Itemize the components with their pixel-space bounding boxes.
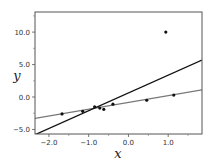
x-tick-label: 1.0: [163, 139, 174, 147]
x-tick-label: 0.0: [123, 139, 134, 147]
data-point: [81, 110, 84, 113]
y-tick-label: 0.0: [19, 94, 30, 102]
x-tick-label: −2.0: [40, 139, 57, 147]
y-tick-label: −5.0: [13, 126, 30, 134]
x-axis-label: x: [114, 146, 122, 161]
data-point: [111, 103, 114, 106]
y-tick-label: 10.0: [14, 29, 30, 37]
data-point: [93, 105, 96, 108]
data-point: [164, 31, 167, 34]
data-point: [145, 99, 148, 102]
y-axis-label: y: [12, 68, 21, 83]
data-point: [98, 106, 101, 109]
plot-area: [35, 12, 202, 134]
x-tick-label: −1.0: [80, 139, 97, 147]
data-point: [172, 93, 175, 96]
data-point: [102, 108, 105, 111]
data-point: [60, 112, 63, 115]
scatter-chart: −2.0−1.00.01.0 −5.00.05.010.0 x y: [0, 0, 208, 168]
